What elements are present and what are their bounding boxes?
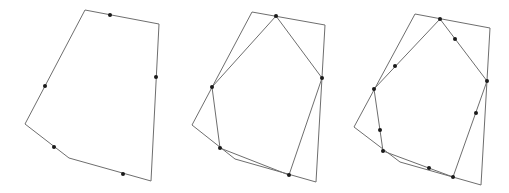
- midpoint-dot: [154, 75, 158, 79]
- midpoint-dot: [474, 111, 478, 115]
- midpoint-dot: [372, 87, 376, 91]
- midpoint-dot: [108, 13, 112, 17]
- panel-original-pentagon: [25, 10, 159, 181]
- original-polygon: [192, 12, 325, 182]
- midpoint-dot: [453, 37, 457, 41]
- midpoint-dot: [451, 175, 455, 179]
- midpoint-dot: [381, 149, 385, 153]
- midpoint-dot: [52, 145, 56, 149]
- midpoint-dot: [438, 17, 442, 21]
- midpoint-dot: [485, 79, 489, 83]
- midpoint-dot: [393, 64, 397, 68]
- midpoint-dot: [274, 14, 278, 18]
- midpoint-polygon: [374, 19, 487, 177]
- midpoint-dot: [287, 173, 291, 177]
- midpoint-polygon: [212, 16, 322, 175]
- midpoint-dot: [320, 76, 324, 80]
- panel-second-midpoints: [354, 14, 490, 185]
- midpoint-dot: [43, 84, 47, 88]
- panel-first-midpoint-polygon: [192, 12, 325, 182]
- midpoint-polygon-diagram: [0, 0, 509, 193]
- midpoint-dot: [218, 146, 222, 150]
- midpoint-dot: [427, 166, 431, 170]
- midpoint-dot: [210, 85, 214, 89]
- original-polygon: [354, 14, 490, 185]
- original-polygon: [25, 10, 159, 181]
- midpoint-dot: [121, 172, 125, 176]
- midpoint-dot: [378, 128, 382, 132]
